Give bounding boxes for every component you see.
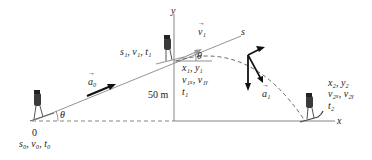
origin-label: 0 [32, 128, 37, 138]
start-label: s₀, v₀, t₀ [19, 139, 51, 149]
y-axis-label: y [171, 6, 175, 16]
landing-line1: x₂, y₂ [328, 78, 349, 88]
takeoff-lower-line1: x₁, y₁ [182, 63, 203, 73]
a0-vector-label: a₀ [88, 77, 96, 87]
v1-vector-label: v₁ [198, 27, 206, 37]
height-label: 50 m [148, 90, 168, 100]
landing-line2: v₂ₓ, v₂ᵧ [328, 89, 354, 99]
angle-arc-origin [56, 111, 58, 121]
skier-start-icon [30, 90, 54, 121]
angle-label-takeoff: θ [197, 51, 202, 61]
skier-landing-icon [300, 93, 323, 122]
takeoff-upper-label: s₁, v₁, t₁ [120, 47, 152, 57]
angle-label-origin: θ [60, 110, 65, 120]
x-axis-label: x [337, 116, 341, 126]
landing-line3: t₂ [328, 101, 334, 111]
a1-vector-label: a₁ [262, 89, 270, 99]
takeoff-lower-line2: v₁ₓ, v₁ᵧ [182, 75, 208, 85]
s-axis-label: s [241, 27, 245, 37]
projectile-diagram: y s x v₁ a₀ a₁ s₁, v₁, t₁ x₁, y₁ v₁ₓ, v₁… [0, 0, 372, 160]
takeoff-lower-line3: t₁ [182, 87, 188, 97]
